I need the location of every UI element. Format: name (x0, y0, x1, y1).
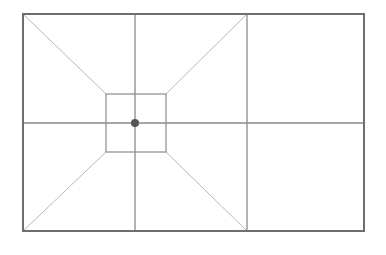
diagonal-line-2 (23, 152, 106, 231)
diagonal-line-3 (166, 152, 247, 231)
grid-lines (23, 14, 364, 231)
diagonal-line-1 (166, 14, 247, 94)
diagonal-line-0 (23, 14, 106, 94)
focus-point-dot (131, 119, 139, 127)
composition-diagram (0, 0, 386, 255)
